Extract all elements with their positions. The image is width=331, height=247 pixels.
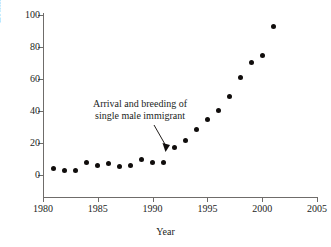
data-point	[238, 75, 243, 80]
data-point	[227, 94, 232, 99]
x-tick-mark	[153, 197, 154, 202]
annotation-text: Arrival and breeding of single male immi…	[76, 98, 204, 122]
data-point	[271, 24, 276, 29]
data-point	[216, 108, 221, 113]
x-tick-label: 1995	[197, 203, 217, 214]
x-tick-mark	[43, 197, 44, 202]
annotation-line-1: Arrival and breeding of	[76, 98, 204, 110]
x-tick-label: 2005	[307, 203, 327, 214]
y-axis-title: Estimated population size	[0, 0, 2, 23]
y-tick-label: 100	[25, 10, 40, 20]
data-point	[139, 157, 144, 162]
y-tick-label: 0	[35, 170, 40, 180]
scatter-plot-figure: 020406080100 198019851990199520002005 Es…	[0, 0, 331, 247]
x-tick-mark	[317, 197, 318, 202]
data-point	[150, 160, 155, 165]
x-tick-label: 1985	[88, 203, 108, 214]
y-tick-label: 60	[30, 74, 40, 84]
x-tick-label: 1980	[33, 203, 53, 214]
y-tick-label: 80	[30, 42, 40, 52]
y-tick-label: 20	[30, 138, 40, 148]
annotation-line-2: single male immigrant	[76, 110, 204, 122]
x-tick-label: 2000	[252, 203, 272, 214]
x-axis-line	[43, 197, 318, 198]
x-tick-mark	[98, 197, 99, 202]
x-tick-mark	[207, 197, 208, 202]
x-tick-mark	[262, 197, 263, 202]
data-point	[249, 60, 254, 65]
x-axis-title: Year	[0, 226, 331, 237]
data-point	[161, 160, 166, 165]
y-tick-label: 40	[30, 106, 40, 116]
data-point	[194, 127, 199, 132]
data-point	[117, 164, 122, 169]
annotation-arrow-icon	[152, 124, 174, 154]
x-tick-label: 1990	[143, 203, 163, 214]
